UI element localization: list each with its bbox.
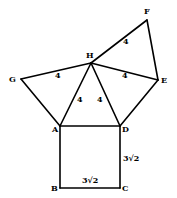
edge-HA [60,63,91,126]
side-label-HF: 4 [123,36,129,46]
vertex-label-G: G [9,74,16,84]
side-label-BC: 3√2 [82,175,98,185]
edge-HD [91,63,120,126]
side-label-DC: 3√2 [123,153,139,163]
edge-FE [147,20,158,80]
side-label-HE: 4 [122,70,128,80]
side-label-HD: 4 [97,94,103,104]
geometry-diagram: FHGEADBC 444443√23√2 [0,0,177,198]
edge-GA [21,79,60,126]
edge-HF [91,20,147,63]
vertex-label-B: B [51,183,58,193]
vertex-label-C: C [122,183,128,193]
side-label-HA: 4 [77,94,83,104]
vertex-label-H: H [86,50,94,60]
vertex-label-A: A [51,124,59,134]
edge-ED [120,80,158,126]
side-label-GH: 4 [55,70,61,80]
vertex-labels: FHGEADBC [9,6,167,193]
vertex-label-D: D [122,124,129,134]
vertex-label-E: E [161,75,167,85]
vertex-label-F: F [144,6,150,16]
